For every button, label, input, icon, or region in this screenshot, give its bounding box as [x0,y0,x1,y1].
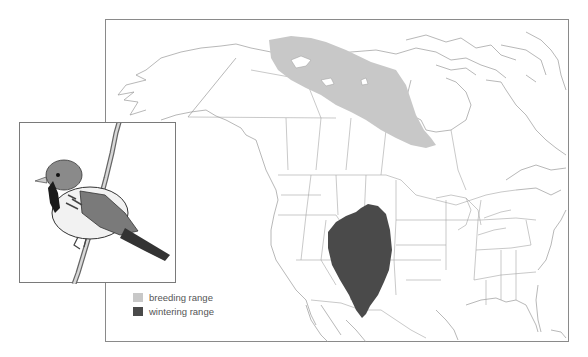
legend-label: wintering range [149,306,214,318]
greenland-coast [526,32,566,90]
pacific-coastline [256,140,316,325]
gulf-coastline [346,298,538,342]
us-canada-border [278,175,516,205]
alberta-sask-border [316,118,321,170]
bird-illustration-inset [19,122,176,283]
bc-alberta-border [286,118,288,170]
wintering-swatch [133,307,143,316]
bird-beak [35,177,47,183]
ontario-quebec-border [451,130,466,190]
baja-california [306,305,341,342]
yukon-bc-border [188,117,336,118]
wintering-range-area [328,204,392,318]
legend-item-wintering: wintering range [133,305,214,318]
sask-manitoba-border [346,118,351,170]
legend-item-breeding: breeding range [133,291,214,304]
bird-eye [56,173,60,177]
legend-label: breeding range [149,292,213,304]
caribbean-islands [551,330,566,338]
bird-tail [120,228,170,261]
great-lakes [436,195,511,235]
atlantic-coastline [536,210,566,332]
sparrow-illustration [20,123,177,284]
manitoba-ontario-border [381,130,386,175]
breeding-swatch [133,293,143,302]
labrador-coast [506,90,566,155]
gulf-st-lawrence [506,165,566,195]
us-state-lines [278,175,536,305]
alaska-canada-border [188,58,236,117]
breeding-range-area [269,36,436,148]
map-legend: breeding range wintering range [133,291,214,319]
